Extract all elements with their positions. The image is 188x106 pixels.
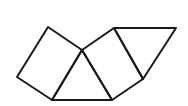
right-triangle <box>114 28 176 79</box>
bottom-triangle <box>52 50 112 100</box>
polygon-net-diagram <box>0 0 188 106</box>
left-square <box>17 27 82 100</box>
